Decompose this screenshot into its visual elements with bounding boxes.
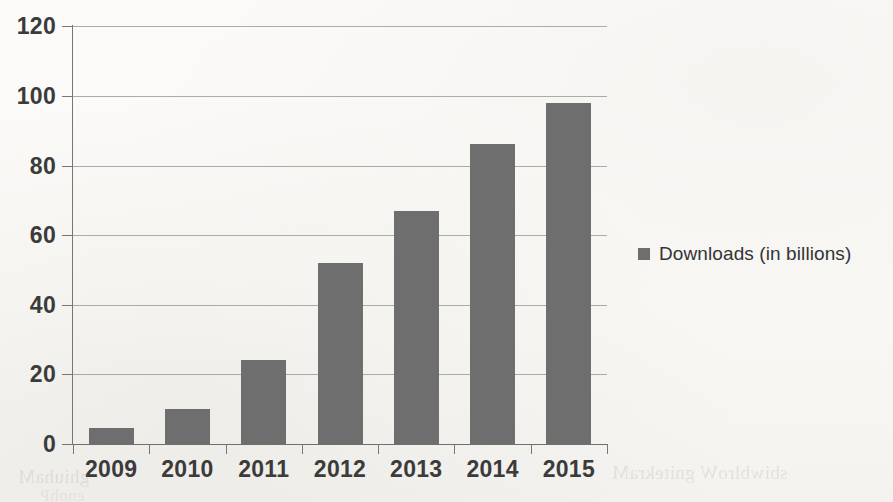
x-axis-tick-2013 [454, 444, 455, 454]
bar-2015 [546, 103, 591, 444]
x-axis-label-2010: 2010 [149, 458, 225, 481]
y-axis-label-60: 60 [2, 224, 56, 247]
x-axis-label-2013: 2013 [378, 458, 454, 481]
x-axis-label-2015: 2015 [531, 458, 607, 481]
x-axis-tick-2011 [302, 444, 303, 454]
x-axis-tick-2015 [607, 444, 608, 454]
y-axis-label-20: 20 [2, 363, 56, 386]
chart-legend: Downloads (in billions) [638, 243, 851, 265]
x-axis-label-2011: 2011 [226, 458, 302, 481]
gridline-100 [73, 96, 607, 97]
bar-chart: 120 100 80 60 40 20 0 200920102011201220… [0, 0, 893, 502]
square-swatch-icon [638, 248, 650, 260]
gridline-120 [73, 26, 607, 27]
x-axis-labels: 2009201020112012201320142015 [73, 458, 607, 492]
x-axis-label-2009: 2009 [73, 458, 149, 481]
x-axis-label-2014: 2014 [454, 458, 530, 481]
x-axis-label-2012: 2012 [302, 458, 378, 481]
x-axis-tick-2014 [531, 444, 532, 454]
x-axis-tick-2009 [149, 444, 150, 454]
y-axis-label-120: 120 [2, 15, 56, 38]
bar-2010 [165, 409, 210, 444]
x-axis-tick-2010 [226, 444, 227, 454]
plot-region [73, 26, 607, 444]
bar-2014 [470, 144, 515, 444]
y-axis-label-0: 0 [2, 433, 56, 456]
bar-2011 [241, 360, 286, 444]
y-axis-label-80: 80 [2, 155, 56, 178]
y-axis-label-100: 100 [2, 85, 56, 108]
bar-2009 [89, 428, 134, 444]
x-axis-tick-origin [73, 444, 74, 454]
gridline-80 [73, 166, 607, 167]
bar-2012 [318, 263, 363, 444]
x-axis-tick-2012 [378, 444, 379, 454]
bar-2013 [394, 211, 439, 444]
legend-item-label: Downloads (in billions) [659, 243, 851, 265]
y-axis-labels: 120 100 80 60 40 20 0 [0, 0, 56, 502]
gridline-60 [73, 235, 607, 236]
x-axis-baseline [73, 444, 607, 445]
y-axis-label-40: 40 [2, 294, 56, 317]
